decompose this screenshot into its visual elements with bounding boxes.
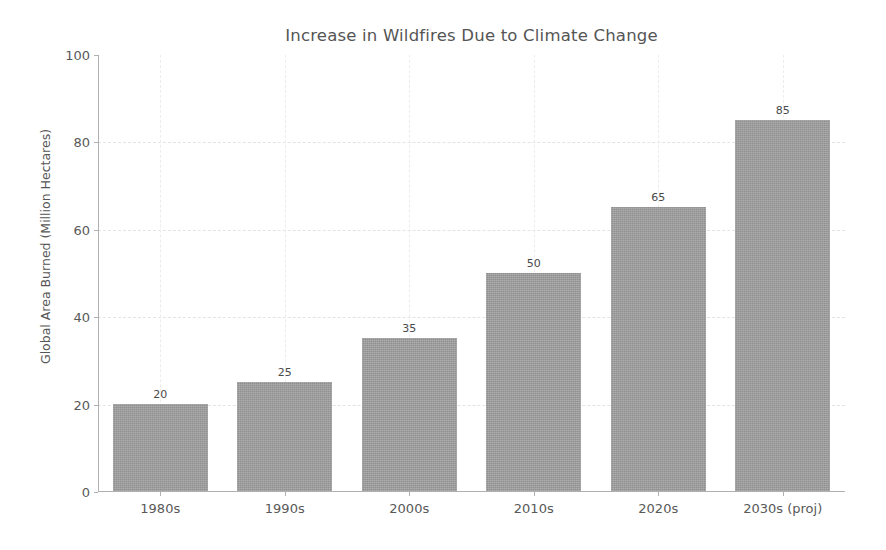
chart-figure: Increase in Wildfires Due to Climate Cha… bbox=[0, 0, 886, 550]
bar-value-label: 35 bbox=[362, 322, 457, 335]
gridline-horizontal bbox=[98, 142, 845, 143]
gridline-horizontal bbox=[98, 230, 845, 231]
y-tick-label: 60 bbox=[73, 222, 90, 237]
x-tick-mark bbox=[285, 492, 286, 496]
y-axis-spine bbox=[98, 55, 99, 492]
plot-area: 202535506585 020406080100 1980s1990s2000… bbox=[98, 55, 845, 492]
y-tick-label: 100 bbox=[65, 48, 90, 63]
x-tick-label: 1980s bbox=[140, 501, 180, 516]
y-tick-label: 80 bbox=[73, 135, 90, 150]
y-axis-label: Global Area Burned (Million Hectares) bbox=[38, 77, 53, 417]
x-tick-mark bbox=[409, 492, 410, 496]
x-tick-label: 2000s bbox=[389, 501, 429, 516]
bar bbox=[362, 338, 457, 491]
bar bbox=[486, 273, 581, 492]
bar bbox=[113, 404, 208, 491]
bar-value-label: 25 bbox=[237, 366, 332, 379]
x-tick-mark bbox=[658, 492, 659, 496]
x-tick-mark bbox=[160, 492, 161, 496]
bar-value-label: 50 bbox=[486, 257, 581, 270]
x-tick-label: 1990s bbox=[265, 501, 305, 516]
bar bbox=[237, 382, 332, 491]
x-tick-mark bbox=[783, 492, 784, 496]
chart-title: Increase in Wildfires Due to Climate Cha… bbox=[98, 26, 845, 45]
bar-value-label: 20 bbox=[113, 388, 208, 401]
gridline-horizontal bbox=[98, 317, 845, 318]
x-tick-label: 2020s bbox=[638, 501, 678, 516]
bar-value-label: 65 bbox=[611, 191, 706, 204]
y-tick-label: 20 bbox=[73, 397, 90, 412]
gridline-horizontal bbox=[98, 405, 845, 406]
x-tick-label: 2030s (proj) bbox=[743, 501, 822, 516]
x-axis-spine bbox=[98, 491, 845, 492]
x-tick-mark bbox=[534, 492, 535, 496]
bar bbox=[611, 207, 706, 491]
bar-value-label: 85 bbox=[735, 104, 830, 117]
y-tick-mark bbox=[94, 492, 98, 493]
bar bbox=[735, 120, 830, 491]
y-tick-label: 40 bbox=[73, 310, 90, 325]
y-tick-label: 0 bbox=[82, 485, 90, 500]
x-tick-label: 2010s bbox=[514, 501, 554, 516]
